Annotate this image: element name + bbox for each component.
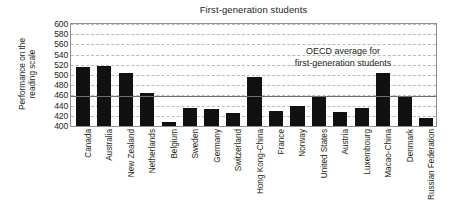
x-tick-label: Macao-China xyxy=(385,129,393,178)
x-tick-label: Canada xyxy=(85,129,93,158)
y-axis-tick-labels: 600580560540520500480460440420400 xyxy=(40,23,68,127)
reference-line-layer xyxy=(71,24,436,126)
x-tick-label: Denmark xyxy=(407,129,415,162)
annotation-line-1: OECD average for xyxy=(268,46,418,58)
annotation-line-2: first-generation students xyxy=(268,58,418,70)
chart-figure: First-generation students Performance on… xyxy=(0,0,457,220)
x-axis-tick-labels: CanadaAustraliaNew ZealandNetherlandsBel… xyxy=(70,129,437,219)
oecd-average-line xyxy=(71,96,436,97)
y-tick-label-400: 400 xyxy=(54,122,68,131)
y-tick-label-460: 460 xyxy=(54,91,68,100)
y-tick-label-520: 520 xyxy=(54,61,68,70)
x-tick-label: Sweden xyxy=(192,129,200,159)
plot-area xyxy=(70,23,437,127)
y-axis-title-line-1: Performance on the xyxy=(18,38,29,110)
y-tick-label-500: 500 xyxy=(54,71,68,80)
y-tick-label-480: 480 xyxy=(54,81,68,90)
x-tick-label: United States xyxy=(321,129,329,178)
x-tick-label: Switzerland xyxy=(235,129,243,171)
y-tick-label-600: 600 xyxy=(54,20,68,29)
x-tick-label: Austria xyxy=(342,129,350,154)
x-tick-label: France xyxy=(278,129,286,154)
x-tick-label: Luxembourg xyxy=(364,129,372,175)
x-tick-label: Norway xyxy=(299,129,307,157)
x-tick-label: Netherlands xyxy=(149,129,157,173)
y-tick-label-440: 440 xyxy=(54,101,68,110)
x-tick-label: Hong Kong-China xyxy=(257,129,265,194)
oecd-average-annotation: OECD average for first-generation studen… xyxy=(268,46,418,69)
x-tick-label: New Zealand xyxy=(128,129,136,177)
x-tick-label: Australia xyxy=(106,129,114,161)
chart-title: First-generation students xyxy=(70,4,437,15)
x-tick-label: Belgium xyxy=(171,129,179,159)
y-tick-label-580: 580 xyxy=(54,30,68,39)
gridline-400 xyxy=(71,126,436,127)
y-tick-label-560: 560 xyxy=(54,40,68,49)
x-tick-label: Germany xyxy=(214,129,222,163)
y-tick-label-420: 420 xyxy=(54,112,68,121)
y-tick-label-540: 540 xyxy=(54,50,68,59)
x-tick-label: Russian Federation xyxy=(428,129,436,200)
y-axis-title-line-2: reading scale xyxy=(28,38,39,110)
